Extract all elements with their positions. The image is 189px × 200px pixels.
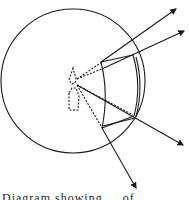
light-source: [69, 68, 79, 110]
outgoing-arrows: [77, 9, 184, 188]
outer-circle: [1, 9, 145, 153]
diagram-canvas: [0, 0, 189, 200]
figure-caption: Diagram showing ... of ...: [2, 191, 151, 200]
